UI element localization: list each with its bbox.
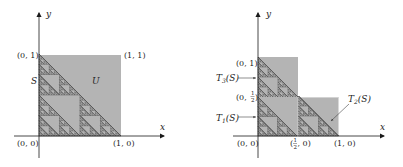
label-half-y: (0, 1 2 ) (236, 90, 258, 103)
t1-text: T1(S) (216, 113, 240, 124)
label-set-s: S (31, 76, 37, 86)
label-half-x: ( 1 2 , 0) (290, 137, 311, 150)
label-top-right: (1, 1) (124, 51, 146, 60)
label-t3: T3(S) (216, 73, 256, 84)
label-set-u: U (92, 76, 100, 86)
label-top-left: (0, 1) (17, 51, 39, 60)
label-bottom-right: (1, 0) (334, 139, 356, 148)
y-axis-label: y (45, 9, 52, 19)
label-top-left: (0, 1) (236, 59, 258, 68)
half-y-den: 2 (251, 97, 255, 103)
label-t1: T1(S) (216, 113, 256, 124)
half-y-prefix: (0, (236, 93, 247, 102)
half-x-suffix: , 0) (298, 139, 311, 148)
y-axis-label: y (265, 9, 272, 19)
t2-text: T2(S) (348, 94, 372, 105)
left-panel: x y (0, 0) (0, 1) (1, 1) (1, 0) S U (14, 9, 165, 158)
half-y-suffix: ) (255, 93, 258, 102)
label-bottom-right: (1, 0) (113, 139, 135, 148)
half-x-den: 2 (294, 144, 298, 150)
label-origin: (0, 0) (17, 139, 39, 148)
t3-text: T3(S) (216, 73, 240, 84)
half-x-num: 1 (294, 137, 298, 143)
x-axis-label: x (160, 122, 165, 132)
half-y-num: 1 (251, 90, 255, 96)
diagram-canvas: x y (0, 0) (0, 1) (1, 1) (1, 0) S U x y … (0, 0, 403, 167)
right-panel: x y (0, 1) (0, 0) (1, 0) (0, 1 2 ) ( 1 2… (216, 9, 385, 158)
x-axis-label: x (380, 122, 385, 132)
label-origin: (0, 0) (237, 139, 259, 148)
